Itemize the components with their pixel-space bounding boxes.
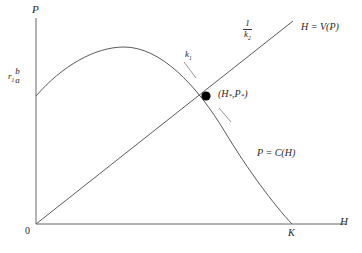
curve-tangent-tick (219, 108, 231, 122)
value-line-equation-label: H = V(P) (301, 22, 339, 32)
y-intercept-fraction: b a (15, 67, 20, 86)
y-intercept-prefix-subscript: 1 (12, 76, 15, 82)
eq-h-letter: H (221, 88, 228, 99)
line-slope-label-1-over-k2: 1 k2 (243, 19, 252, 42)
y-intercept-label: r1 b a (8, 67, 20, 86)
plot-svg (0, 0, 362, 253)
cost-curve-path (36, 47, 292, 224)
curve-slope-label-k1: k1 (185, 50, 192, 61)
equilibrium-point-dot (201, 91, 210, 100)
k2-subscript: 2 (248, 35, 251, 41)
eq-paren-close: ) (244, 88, 247, 99)
y-intercept-prefix: r1 (8, 71, 14, 83)
y-intercept-denominator: a (15, 76, 20, 85)
x-axis-label: H (340, 216, 348, 227)
y-axis-label: P (32, 4, 39, 15)
equilibrium-point-label: (H*,P*) (218, 89, 248, 100)
k2-fraction-numerator: 1 (244, 19, 251, 28)
k1-subscript: 1 (189, 55, 192, 61)
k2-fraction-denominator: k2 (243, 30, 252, 42)
x-tick-label-k: K (288, 228, 295, 238)
origin-label: 0 (25, 226, 30, 236)
value-line-path (36, 21, 293, 224)
cost-curve-equation-label: P = C(H) (257, 148, 295, 158)
k1-tangent-tick (184, 62, 196, 78)
diagram-canvas: P H 0 K r1 b a k1 1 k2 H = V(P) P = C(H)… (0, 0, 362, 253)
